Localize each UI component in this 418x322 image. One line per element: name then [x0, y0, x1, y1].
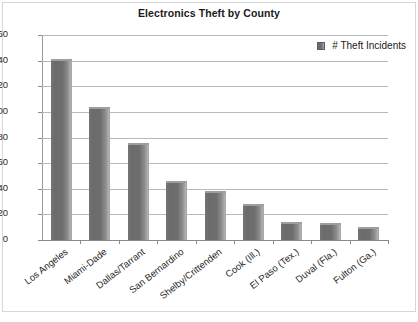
y-tick-mark-80 [38, 138, 42, 139]
y-tick-mark-100 [38, 112, 42, 113]
bar [51, 59, 72, 240]
y-tick-label-120: 120 [0, 79, 8, 90]
bar [166, 181, 187, 240]
bar [320, 223, 341, 240]
y-tick-mark-140 [38, 61, 42, 62]
y-tick-label-160: 160 [0, 28, 8, 39]
bar [205, 191, 226, 240]
y-tick-mark-20 [38, 214, 42, 215]
bar [358, 227, 379, 240]
x-tick-mark [234, 240, 235, 244]
x-tick-mark [80, 240, 81, 244]
bar [243, 204, 264, 240]
chart-title: Electronics Theft by County [0, 7, 418, 19]
x-tick-mark [196, 240, 197, 244]
y-tick-mark-40 [38, 189, 42, 190]
y-tick-label-140: 140 [0, 54, 8, 65]
y-tick-mark-120 [38, 86, 42, 87]
x-tick-mark [157, 240, 158, 244]
gridline-0 [42, 240, 388, 241]
y-tick-mark-0 [38, 240, 42, 241]
y-tick-label-20: 20 [0, 207, 8, 218]
y-tick-label-40: 40 [0, 182, 8, 193]
x-axis-label: Fulton (Ga.) [301, 246, 377, 309]
y-tick-label-80: 80 [0, 131, 8, 142]
bar [89, 107, 110, 240]
x-tick-mark [119, 240, 120, 244]
x-tick-mark [311, 240, 312, 244]
gridline-120 [42, 86, 388, 87]
gridline-160 [42, 35, 388, 36]
bar [281, 222, 302, 240]
y-tick-label-60: 60 [0, 156, 8, 167]
x-tick-mark [388, 240, 389, 244]
plot-area: 160140120100806040200 [42, 35, 388, 240]
bar [128, 143, 149, 240]
x-tick-mark [350, 240, 351, 244]
y-tick-mark-160 [38, 35, 42, 36]
y-tick-label-0: 0 [0, 233, 8, 244]
bar-chart: Electronics Theft by County # Theft Inci… [0, 0, 418, 322]
y-tick-mark-60 [38, 163, 42, 164]
gridline-140 [42, 61, 388, 62]
x-tick-mark [273, 240, 274, 244]
y-tick-label-100: 100 [0, 105, 8, 116]
